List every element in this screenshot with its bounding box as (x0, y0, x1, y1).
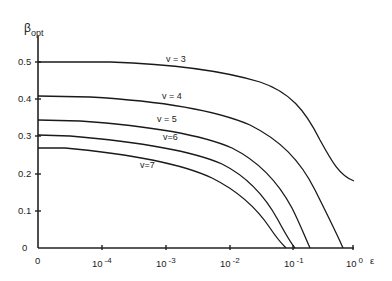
y-tick-label: 0.4 (18, 93, 31, 104)
y-tick-label: 0.3 (18, 130, 31, 141)
x-tick-label: 0 (35, 255, 40, 266)
x-tick-label: 10-2 (220, 256, 240, 269)
y-tick-label: 0 (22, 242, 27, 253)
x-tick-label: 100 (346, 256, 364, 269)
curve-v4 (38, 96, 343, 248)
y-axis-label: βopt (24, 21, 44, 38)
y-tick-label: 0.5 (18, 56, 31, 67)
beta-opt-chart: βopt 0.5 0.4 0.3 0.2 0.1 0 0 10-4 10-3 1… (0, 0, 392, 281)
label-v4: v = 4 (162, 91, 182, 101)
label-v3: v = 3 (166, 54, 186, 64)
curve-labels: v = 3 v = 4 v = 5 v=6 v=7 (140, 54, 186, 170)
label-v7: v=7 (140, 160, 155, 170)
x-axis-label: ε (370, 255, 375, 266)
curve-v7 (38, 148, 286, 248)
x-tick-label: 10-4 (92, 256, 112, 269)
curve-v6 (38, 135, 295, 248)
label-v5: v = 5 (157, 114, 177, 124)
label-v6: v=6 (163, 132, 178, 142)
x-tick-label: 10-3 (156, 256, 176, 269)
curves (38, 62, 354, 248)
x-tick-label: 10-1 (284, 256, 304, 269)
y-tick-label: 0.1 (18, 205, 31, 216)
y-tick-label: 0.2 (18, 168, 31, 179)
